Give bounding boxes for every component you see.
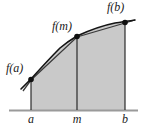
midpoint-rule-figure: f(a) f(m) f(b) a m b: [0, 0, 142, 128]
point-fb: [122, 20, 128, 26]
label-f-of-b: f(b): [107, 1, 124, 13]
axis-label-a: a: [24, 113, 38, 125]
label-f-of-m: f(m): [52, 20, 72, 32]
label-f-of-a: f(a): [6, 62, 23, 74]
point-fm: [74, 34, 80, 40]
axis-label-b: b: [118, 113, 132, 125]
axis-label-m: m: [69, 113, 85, 125]
point-fa: [28, 77, 34, 83]
